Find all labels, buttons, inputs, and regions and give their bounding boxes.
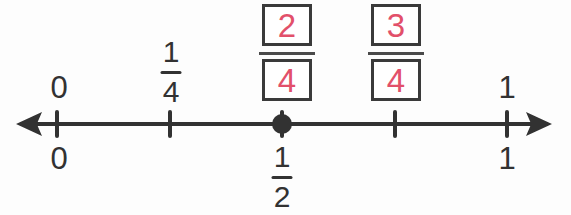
- boxed-fraction-three-fourths: 3 4: [368, 4, 424, 101]
- boxed-denominator-four-digit: 4: [278, 64, 296, 97]
- fraction-one-half-numerator: 1: [274, 142, 291, 172]
- fraction-bar: [259, 52, 315, 55]
- boxed-numerator-two: 2: [262, 4, 312, 46]
- boxed-denominator-four-digit: 4: [387, 64, 405, 97]
- number-line-figure: 0 1 0 1 1 4 1 2 2 4 3 4: [0, 0, 571, 215]
- boxed-numerator-two-digit: 2: [278, 9, 296, 42]
- label-above-one: 1: [498, 72, 515, 103]
- fraction-one-fourth-denominator: 4: [163, 77, 180, 107]
- fraction-bar: [368, 52, 424, 55]
- label-above-zero: 0: [50, 72, 67, 103]
- boxed-numerator-three: 3: [371, 4, 421, 46]
- boxed-denominator-four: 4: [371, 59, 421, 101]
- fraction-bar: [161, 71, 182, 74]
- tick-mark: [168, 110, 172, 138]
- point-marker-one-half: [272, 114, 292, 134]
- tick-mark: [505, 110, 509, 138]
- fraction-one-half-denominator: 2: [274, 182, 291, 212]
- boxed-fraction-two-fourths: 2 4: [259, 4, 315, 101]
- tick-mark: [393, 110, 397, 138]
- fraction-one-fourth-numerator: 1: [163, 37, 180, 67]
- boxed-denominator-four: 4: [262, 59, 312, 101]
- fraction-one-fourth: 1 4: [161, 37, 182, 107]
- label-below-one: 1: [498, 143, 515, 174]
- boxed-numerator-three-digit: 3: [387, 9, 405, 42]
- fraction-bar: [272, 176, 293, 179]
- label-below-zero: 0: [50, 143, 67, 174]
- fraction-one-half: 1 2: [272, 142, 293, 212]
- tick-mark: [55, 110, 59, 138]
